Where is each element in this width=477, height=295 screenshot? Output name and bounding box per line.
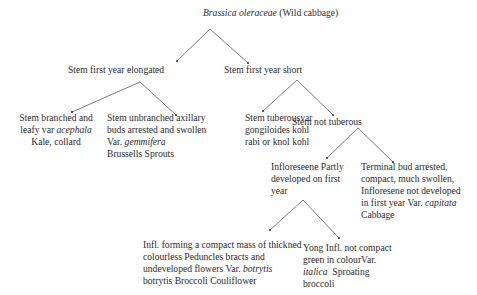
node-line: botrytis Broccoli Couliflower: [143, 275, 302, 287]
node-brussels: Stem unbranched axillary buds arrested a…: [107, 112, 206, 160]
node-line: developed on first: [271, 173, 344, 185]
node-infl-partly: Infloreseene Partly developed on first y…: [271, 161, 344, 197]
node-not-tuberous: Stem not tuberous: [292, 116, 362, 128]
node-line: Infl. forming a compact mass of thickned: [143, 239, 302, 251]
node-label: Stem first year elongated: [68, 64, 164, 75]
node-line: green in colourVar.: [303, 254, 392, 266]
node-broccoli: Yong Infl. not compact green in colourVa…: [303, 242, 392, 290]
node-line: Kale, collard: [13, 136, 99, 148]
edge-short-tuberous: [263, 80, 297, 111]
edge-nottuberous-terminal: [358, 128, 393, 162]
node-line: Terminal bud arrested,: [361, 161, 461, 173]
edge-elongated-kale: [72, 82, 140, 112]
node-line: italica Sproating: [303, 266, 392, 278]
node-line: Var. gemmifera: [107, 136, 206, 148]
edge-infl-broccoli: [303, 200, 339, 238]
node-line: Yong Infl. not compact: [303, 242, 392, 254]
node-line: rabi or knol kohl: [245, 136, 312, 148]
node-stem-short: Stem first year short: [224, 64, 302, 76]
root-species: Brassica oleraceae: [203, 7, 277, 18]
node-line: Brussells Sprouts: [107, 148, 206, 160]
node-label: Stem not tuberous: [292, 116, 362, 127]
edge-root-short: [210, 29, 248, 63]
node-line: in first year Var. capitata: [361, 197, 461, 209]
node-line: compact, much swollen,: [361, 173, 461, 185]
node-terminal-bud: Terminal bud arrested, compact, much swo…: [361, 161, 461, 221]
edge-infl-cauliflower: [270, 200, 303, 230]
node-line: Infloreseene Partly: [271, 161, 344, 173]
node-line: undeveloped flowers Var. botrytis: [143, 263, 302, 275]
node-kale: Stem branched and leafy var acephala Kal…: [13, 112, 99, 148]
node-line: buds arrested and swollen: [107, 124, 206, 136]
node-line: leafy var acephala: [13, 124, 99, 136]
node-line: Stem unbranched axillary: [107, 112, 206, 124]
node-line: broccoli: [303, 278, 392, 290]
node-stem-elongated: Stem first year elongated: [68, 64, 164, 76]
node-line: Cabbage: [361, 209, 461, 221]
edge-elongated-brussels: [140, 82, 176, 115]
node-line: Infloresene not developed: [361, 185, 461, 197]
root-node: Brassica oleraceae (Wild cabbage): [203, 7, 338, 19]
node-line: year: [271, 185, 344, 197]
edge-nottuberous-infl: [327, 128, 358, 158]
node-label: Stem first year short: [224, 64, 302, 75]
edge-short-not-tuberous: [297, 80, 333, 115]
root-common-name: (Wild cabbage): [277, 7, 338, 18]
node-line: colourless Peduncles bracts and: [143, 251, 302, 263]
edge-root-elongated: [177, 29, 210, 61]
node-line: Stem branched and: [13, 112, 99, 124]
node-cauliflower: Infl. forming a compact mass of thickned…: [143, 239, 302, 287]
